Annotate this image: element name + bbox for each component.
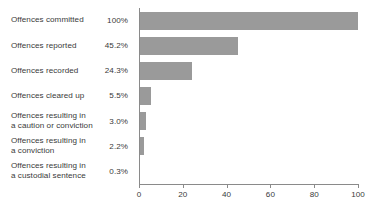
bar-track xyxy=(139,134,358,159)
chart-rows: Offences committed100%Offences reported4… xyxy=(0,8,372,184)
bar xyxy=(139,62,192,80)
bar-track xyxy=(139,83,358,108)
value-label: 3.0% xyxy=(98,117,128,126)
x-tick-label: 100 xyxy=(351,190,365,199)
value-label: 24.3% xyxy=(98,66,128,75)
x-tick-mark xyxy=(227,185,228,188)
bar-track xyxy=(139,33,358,58)
value-label: 2.2% xyxy=(98,142,128,151)
category-label: Offences resulting in a custodial senten… xyxy=(0,161,98,181)
value-label: 5.5% xyxy=(98,91,128,100)
value-label: 0.3% xyxy=(98,167,128,176)
category-label: Offences cleared up xyxy=(0,91,98,101)
x-tick-mark xyxy=(270,185,271,188)
bar-track xyxy=(139,109,358,134)
x-tick-label: 80 xyxy=(310,190,319,199)
x-axis-ticks: 020406080100 xyxy=(139,185,358,209)
category-label: Offences recorded xyxy=(0,66,98,76)
x-tick-label: 0 xyxy=(137,190,142,199)
x-tick-mark xyxy=(139,185,140,188)
bar xyxy=(139,12,358,30)
x-tick-mark xyxy=(314,185,315,188)
category-label: Offences resulting in a conviction xyxy=(0,136,98,156)
x-tick-mark xyxy=(183,185,184,188)
x-tick-label: 40 xyxy=(222,190,231,199)
chart-row: Offences reported45.2% xyxy=(0,33,372,58)
chart-row: Offences committed100% xyxy=(0,8,372,33)
chart-row: Offences resulting in a custodial senten… xyxy=(0,159,372,184)
chart-row: Offences resulting in a caution or convi… xyxy=(0,109,372,134)
bar-track xyxy=(139,58,358,83)
x-tick-mark xyxy=(358,185,359,188)
category-label: Offences resulting in a caution or convi… xyxy=(0,111,98,131)
x-tick-label: 60 xyxy=(266,190,275,199)
bar-track xyxy=(139,8,358,33)
bar xyxy=(139,37,238,55)
bar-track xyxy=(139,159,358,184)
value-label: 45.2% xyxy=(98,41,128,50)
bar xyxy=(139,87,151,105)
category-label: Offences committed xyxy=(0,15,98,25)
value-label: 100% xyxy=(98,16,128,25)
chart-row: Offences recorded24.3% xyxy=(0,58,372,83)
category-label: Offences reported xyxy=(0,41,98,51)
chart-row: Offences resulting in a conviction2.2% xyxy=(0,134,372,159)
y-axis-line xyxy=(139,8,140,185)
x-tick-label: 20 xyxy=(178,190,187,199)
chart-row: Offences cleared up5.5% xyxy=(0,83,372,108)
horizontal-bar-chart: Offences committed100%Offences reported4… xyxy=(0,0,372,211)
